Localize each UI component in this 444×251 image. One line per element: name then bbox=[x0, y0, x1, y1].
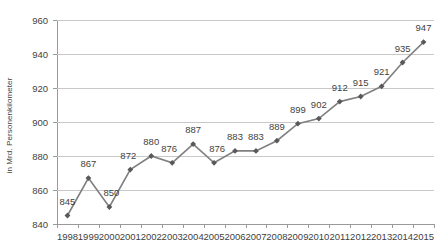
x-axis-tick-label: 2006 bbox=[224, 231, 245, 242]
data-point-label: 912 bbox=[332, 82, 348, 93]
x-axis-tick-label: 2010 bbox=[308, 231, 329, 242]
x-axis-tick-mark bbox=[413, 224, 414, 228]
y-axis-tick-label: 960 bbox=[0, 15, 48, 26]
x-axis-tick-label: 2005 bbox=[204, 231, 225, 242]
data-point-label: 899 bbox=[290, 104, 306, 115]
x-axis-tick-label: 2002 bbox=[141, 231, 162, 242]
data-point-label: 947 bbox=[416, 22, 432, 33]
data-point-label: 880 bbox=[143, 136, 159, 147]
x-axis-tick-mark bbox=[434, 224, 435, 228]
y-axis-tick-label: 880 bbox=[0, 151, 48, 162]
data-point-label: 867 bbox=[80, 158, 96, 169]
x-axis-tick-mark bbox=[183, 224, 184, 228]
x-axis-tick-mark bbox=[308, 224, 309, 228]
data-point-label: 872 bbox=[120, 150, 136, 161]
x-axis-tick-label: 2012 bbox=[350, 231, 371, 242]
data-point-marker bbox=[358, 94, 364, 100]
data-point-label: 935 bbox=[395, 43, 411, 54]
x-axis-tick-label: 2011 bbox=[330, 231, 350, 242]
y-axis-tick-label: 920 bbox=[0, 83, 48, 94]
data-point-label: 915 bbox=[353, 77, 369, 88]
data-point-label: 889 bbox=[269, 121, 285, 132]
x-axis-tick-label: 2007 bbox=[245, 231, 266, 242]
x-axis-tick-mark bbox=[141, 224, 142, 228]
data-point-label: 883 bbox=[227, 131, 243, 142]
x-axis-tick-mark bbox=[392, 224, 393, 228]
x-axis-tick-mark bbox=[120, 224, 121, 228]
x-axis-tick-mark bbox=[266, 224, 267, 228]
series-polyline bbox=[67, 42, 423, 215]
x-axis-tick-label: 2013 bbox=[371, 231, 392, 242]
x-axis-tick-mark bbox=[162, 224, 163, 228]
x-axis-tick-mark bbox=[78, 224, 79, 228]
x-axis-tick-label: 1999 bbox=[78, 231, 99, 242]
x-axis-tick-label: 2008 bbox=[266, 231, 287, 242]
x-axis-tick-mark bbox=[371, 224, 372, 228]
data-point-label: 921 bbox=[374, 66, 390, 77]
data-point-label: 876 bbox=[209, 143, 225, 154]
x-axis-tick-label: 2003 bbox=[162, 231, 183, 242]
x-axis-tick-mark bbox=[350, 224, 351, 228]
x-axis-tick-label: 2009 bbox=[287, 231, 308, 242]
data-point-label: 876 bbox=[161, 143, 177, 154]
x-axis-tick-label: 2015 bbox=[413, 231, 434, 242]
x-axis-tick-mark bbox=[246, 224, 247, 228]
x-axis-tick-label: 2014 bbox=[392, 231, 413, 242]
x-axis-tick-mark bbox=[99, 224, 100, 228]
x-axis-tick-mark bbox=[329, 224, 330, 228]
y-axis-tick-label: 840 bbox=[0, 219, 48, 230]
data-point-label: 902 bbox=[311, 99, 327, 110]
x-axis-tick-mark bbox=[287, 224, 288, 228]
x-axis-tick-label: 2004 bbox=[183, 231, 204, 242]
data-point-label: 845 bbox=[60, 196, 76, 207]
x-axis-tick-label: 2000 bbox=[99, 231, 120, 242]
x-axis-tick-label: 1998 bbox=[57, 231, 78, 242]
x-axis-tick-mark bbox=[225, 224, 226, 228]
data-point-label: 850 bbox=[103, 187, 119, 198]
data-point-marker bbox=[253, 148, 259, 154]
y-axis-tick-label: 940 bbox=[0, 49, 48, 60]
x-axis-tick-label: 2001 bbox=[120, 231, 141, 242]
x-axis-tick-mark bbox=[204, 224, 205, 228]
line-chart: in Mrd. Personenkilometer 84086088090092… bbox=[0, 0, 444, 251]
y-axis-tick-label: 860 bbox=[0, 185, 48, 196]
y-axis-tick-label: 900 bbox=[0, 117, 48, 128]
data-point-label: 887 bbox=[185, 124, 201, 135]
data-point-label: 883 bbox=[248, 131, 264, 142]
plot-area: 8458678508728808768878768838838898999029… bbox=[57, 20, 434, 224]
x-axis-tick-mark bbox=[57, 224, 58, 228]
